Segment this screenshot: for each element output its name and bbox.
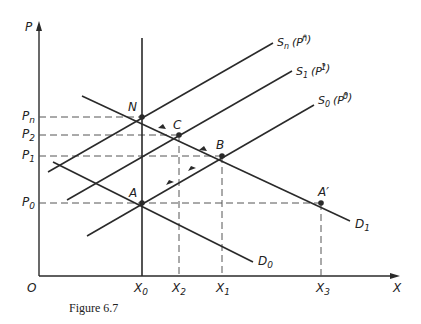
quantity-label-x0: X0 bbox=[133, 281, 148, 297]
origin-label: O bbox=[27, 281, 36, 295]
point-a bbox=[139, 200, 145, 206]
svg-text:P2: P2 bbox=[22, 127, 35, 143]
svg-text:X1: X1 bbox=[215, 281, 230, 297]
svg-text:X2: X2 bbox=[171, 281, 186, 297]
svg-text:S0(P*0): S0(P*0) bbox=[318, 91, 352, 109]
point-n bbox=[139, 114, 145, 120]
svg-text:D1: D1 bbox=[355, 217, 370, 233]
svg-text:P1: P1 bbox=[22, 148, 35, 164]
label-c: C bbox=[173, 118, 182, 132]
curve-label-s1: S1(P*1) bbox=[296, 62, 330, 80]
price-label-p1: P1 bbox=[22, 148, 35, 164]
x-axis-arrow-icon bbox=[390, 273, 400, 279]
x-axis-label: X bbox=[392, 281, 402, 295]
svg-text:Pn: Pn bbox=[22, 109, 35, 125]
quantity-label-x1: X1 bbox=[215, 281, 230, 297]
svg-text:D0: D0 bbox=[258, 254, 273, 270]
curve-label-s0: S0(P*0) bbox=[318, 91, 352, 109]
arrow-icon bbox=[166, 180, 174, 185]
supply-curve-s0 bbox=[87, 105, 314, 236]
label-b: B bbox=[216, 138, 224, 152]
supply-curve-sn bbox=[48, 43, 273, 172]
svg-text:X3: X3 bbox=[315, 281, 330, 297]
y-axis-arrow-icon bbox=[36, 21, 42, 31]
label-n: N bbox=[128, 100, 137, 114]
point-c bbox=[176, 132, 182, 138]
label-a-prime: A′ bbox=[317, 185, 329, 199]
svg-text:S1(P*1): S1(P*1) bbox=[296, 62, 330, 80]
figure-6-7: N C B A A′ P X O Pn P2 P1 P0 X0 X2 X1 X3… bbox=[0, 0, 421, 324]
point-a-prime bbox=[318, 200, 324, 206]
supply-demand-diagram: N C B A A′ P X O Pn P2 P1 P0 X0 X2 X1 X3… bbox=[0, 0, 421, 324]
price-label-pn: Pn bbox=[22, 109, 35, 125]
arrow-icon bbox=[158, 124, 166, 129]
label-a: A bbox=[128, 186, 137, 200]
demand-curve-d0 bbox=[53, 162, 253, 262]
price-label-p2: P2 bbox=[22, 127, 35, 143]
quantity-label-x3: X3 bbox=[315, 281, 330, 297]
price-label-p0: P0 bbox=[22, 195, 35, 211]
svg-text:Sn(P*n): Sn(P*n) bbox=[277, 33, 311, 51]
y-axis-label: P bbox=[25, 20, 33, 34]
figure-caption: Figure 6.7 bbox=[69, 301, 118, 315]
arrow-icon bbox=[188, 166, 196, 171]
svg-text:X0: X0 bbox=[133, 281, 148, 297]
svg-text:P0: P0 bbox=[22, 195, 35, 211]
quantity-label-x2: X2 bbox=[171, 281, 186, 297]
curve-label-sn: Sn(P*n) bbox=[277, 33, 311, 51]
curve-label-d1: D1 bbox=[355, 217, 370, 233]
point-b bbox=[219, 153, 225, 159]
curve-label-d0: D0 bbox=[258, 254, 273, 270]
